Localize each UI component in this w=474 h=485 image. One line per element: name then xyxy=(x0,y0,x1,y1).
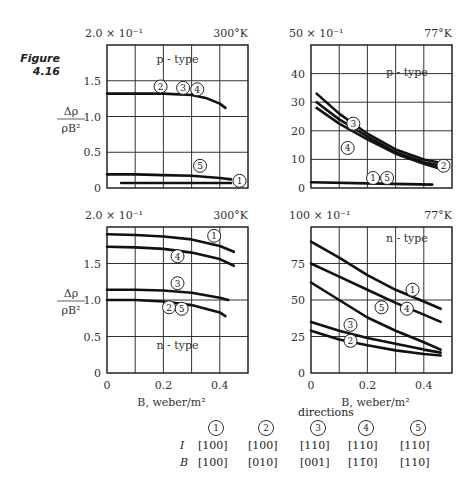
y-axis-label-numerator: Δρ xyxy=(64,105,78,118)
direction-cell: [110] xyxy=(400,456,430,469)
series-line-3 xyxy=(107,290,228,300)
series-marker-number: 5 xyxy=(384,173,390,183)
series-marker-number: 4 xyxy=(175,252,181,262)
direction-column-header: 5 xyxy=(410,420,426,436)
direction-cell: [010] xyxy=(248,456,278,469)
y-tick-label: 25 xyxy=(291,331,305,344)
temperature-label: 300°K xyxy=(213,209,248,222)
y-tick-label: 30 xyxy=(291,96,305,109)
y-tick-label: 75 xyxy=(291,258,305,271)
series-marker-number: 3 xyxy=(350,119,356,129)
series-line-3 xyxy=(317,94,438,163)
panel-title: n - type xyxy=(157,339,199,352)
series-line-4 xyxy=(107,247,234,266)
series-line-2-3-4 xyxy=(107,94,225,108)
scale-label: 2.0 × 10⁻¹ xyxy=(85,27,143,40)
series-marker-number: 2 xyxy=(348,336,354,346)
x-tick-label: 0 xyxy=(104,379,111,392)
y-tick-label: 0 xyxy=(298,367,305,380)
series-marker-number: 1 xyxy=(370,173,376,183)
scale-label: 2.0 × 10⁻¹ xyxy=(85,209,143,222)
x-tick-label: 0.2 xyxy=(155,379,173,392)
series-marker-number: 1 xyxy=(237,176,243,186)
temperature-label: 77°K xyxy=(424,27,452,40)
directions-title: directions xyxy=(196,406,456,419)
direction-column-header: 1 xyxy=(208,420,224,436)
series-marker-number: 3 xyxy=(180,83,186,93)
direction-column-header: 4 xyxy=(358,420,374,436)
panel-title: p - type xyxy=(386,66,428,79)
panel-title: n - type xyxy=(386,232,428,245)
direction-cell: [110] xyxy=(300,439,330,452)
temperature-label: 77°K xyxy=(424,209,452,222)
direction-cell: [100] xyxy=(198,439,228,452)
y-axis-label-numerator: Δρ xyxy=(64,287,78,300)
direction-cell: [11̄0] xyxy=(348,456,378,469)
direction-cell: [100] xyxy=(198,456,228,469)
series-line-2 xyxy=(317,102,438,165)
y-tick-label: 0 xyxy=(94,367,101,380)
series-marker-number: 2 xyxy=(441,161,447,171)
series-marker-number: 1 xyxy=(211,231,217,241)
series-line-2 xyxy=(311,331,441,356)
direction-cell: [100] xyxy=(248,439,278,452)
y-tick-label: 1.5 xyxy=(84,258,102,271)
series-marker-number: 5 xyxy=(197,161,203,171)
scale-label: 50 × 10⁻¹ xyxy=(289,27,343,40)
series-marker-number: 2 xyxy=(166,303,172,313)
direction-cell: [110] xyxy=(400,439,430,452)
temperature-label: 300°K xyxy=(213,27,248,40)
y-tick-label: 10 xyxy=(291,153,305,166)
direction-cell: [110] xyxy=(348,439,378,452)
series-marker-number: 2 xyxy=(158,82,164,92)
series-marker-number: 4 xyxy=(194,85,200,95)
series-marker-number: 5 xyxy=(379,303,385,313)
series-marker-number: 5 xyxy=(179,304,185,314)
x-tick-label: 0 xyxy=(308,379,315,392)
y-axis-label-denominator: ρB² xyxy=(62,304,81,317)
y-axis-label-denominator: ρB² xyxy=(62,122,81,135)
series-line-4 xyxy=(311,264,441,322)
y-tick-label: 1.0 xyxy=(84,294,102,307)
series-marker-number: 3 xyxy=(348,320,354,330)
series-marker-number: 3 xyxy=(175,279,181,289)
y-tick-label: 0.5 xyxy=(84,331,102,344)
series-line-5 xyxy=(107,174,231,179)
direction-cell: [001] xyxy=(300,456,330,469)
scale-label: 100 × 10⁻¹ xyxy=(289,209,350,222)
direction-column-header: 2 xyxy=(258,420,274,436)
series-marker-number: 4 xyxy=(345,143,351,153)
y-tick-label: 40 xyxy=(291,68,305,81)
y-tick-label: 0 xyxy=(94,182,101,195)
y-tick-label: 1.5 xyxy=(84,75,102,88)
direction-row-label: B xyxy=(180,456,188,469)
y-tick-label: 1.0 xyxy=(84,111,102,124)
y-tick-label: 0.5 xyxy=(84,146,102,159)
y-tick-label: 20 xyxy=(291,125,305,138)
panel-title: p - type xyxy=(157,53,199,66)
x-tick-label: 0.2 xyxy=(359,379,377,392)
direction-row-label: I xyxy=(180,439,184,452)
x-tick-label: 0.4 xyxy=(211,379,229,392)
series-line-1 xyxy=(311,242,441,309)
x-tick-label: 0.4 xyxy=(415,379,433,392)
direction-column-header: 3 xyxy=(310,420,326,436)
series-marker-number: 1 xyxy=(410,285,416,295)
series-marker-number: 4 xyxy=(404,304,410,314)
y-tick-label: 50 xyxy=(291,294,305,307)
y-tick-label: 0 xyxy=(298,182,305,195)
